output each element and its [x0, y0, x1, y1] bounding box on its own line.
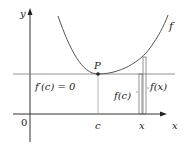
point-label: P: [93, 60, 101, 71]
curve-label: f: [168, 20, 175, 33]
x-axis-arrow-icon: [160, 112, 167, 117]
f-c-bar: [139, 74, 142, 114]
y-axis-label: y: [19, 8, 26, 19]
x-axis-label: x: [172, 120, 178, 131]
curve-f: [58, 15, 168, 74]
point-p: [96, 72, 100, 76]
f-x-label: f(x): [149, 81, 167, 92]
derivative-label: f′(c) = 0: [34, 81, 76, 92]
origin-label: 0: [21, 117, 27, 128]
f-c-label: f(c): [113, 90, 131, 101]
c-tick-label: c: [95, 120, 101, 131]
derivative-diagram: y f P f′(c) = 0 0 c x x f(c) f(x): [0, 0, 190, 147]
f-x-bar: [143, 57, 146, 114]
y-axis-arrow-icon: [28, 8, 33, 15]
x-tick-label: x: [139, 120, 145, 131]
